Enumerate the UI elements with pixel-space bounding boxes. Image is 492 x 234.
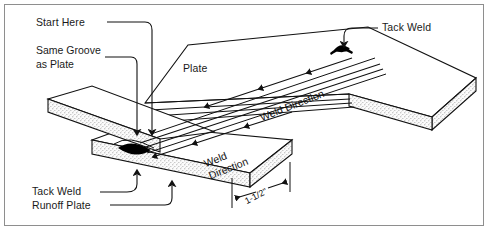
leader-tack-weld-bottom: [100, 175, 137, 192]
label-tack-weld-bottom: Tack Weld: [32, 185, 81, 198]
leader-runoff-plate: [110, 186, 172, 205]
label-plate: Plate: [183, 62, 207, 75]
label-same-groove-line1: Same Groove: [36, 44, 101, 58]
label-same-groove: Same Groove as Plate: [36, 44, 101, 71]
upper-plate: [145, 27, 476, 130]
label-tack-weld-top: Tack Weld: [382, 21, 431, 34]
label-same-groove-line2: as Plate: [36, 58, 101, 72]
diagram-canvas: Start Here Same Groove as Plate Plate Ta…: [0, 0, 492, 234]
label-start-here: Start Here: [36, 16, 85, 29]
label-runoff-plate: Runoff Plate: [32, 199, 91, 212]
